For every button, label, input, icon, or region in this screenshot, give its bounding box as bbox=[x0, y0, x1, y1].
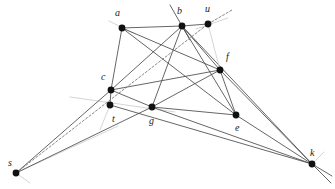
vertex-label-t: t bbox=[112, 113, 115, 124]
dash-extend-u bbox=[208, 10, 232, 24]
vertex-f[interactable] bbox=[217, 67, 224, 74]
edge-g-f bbox=[152, 70, 220, 107]
vertex-a[interactable] bbox=[119, 25, 126, 32]
vertex-label-f: f bbox=[226, 51, 230, 62]
vertex-c[interactable] bbox=[108, 87, 115, 94]
edge-a-c bbox=[111, 28, 122, 90]
vertex-label-s: s bbox=[8, 157, 12, 168]
vertex-t[interactable] bbox=[107, 102, 114, 109]
edge-e-k bbox=[236, 115, 312, 164]
vertex-label-e: e bbox=[235, 122, 240, 133]
geometric-diagram-canvas: abuctgfesk bbox=[0, 0, 335, 189]
vertex-label-a: a bbox=[115, 7, 120, 18]
edge-s-u bbox=[16, 24, 208, 173]
vertex-label-b: b bbox=[177, 5, 182, 16]
edges-group bbox=[16, 24, 312, 173]
vertex-label-k: k bbox=[310, 147, 315, 158]
edge-u-b bbox=[182, 24, 208, 26]
vertex-label-u: u bbox=[205, 3, 210, 14]
vertex-g[interactable] bbox=[149, 104, 156, 111]
edge-b-k bbox=[182, 26, 312, 164]
edge-b-e bbox=[182, 26, 236, 115]
line-t-down bbox=[100, 105, 110, 130]
edge-c-g bbox=[111, 90, 152, 107]
vertex-label-c: c bbox=[101, 71, 106, 82]
edge-t-k bbox=[110, 105, 312, 164]
vertex-s[interactable] bbox=[13, 170, 20, 177]
vertex-label-g: g bbox=[149, 115, 154, 126]
edge-b-c bbox=[111, 26, 182, 90]
diagram-svg: abuctgfesk bbox=[0, 0, 335, 189]
edge-b-g bbox=[152, 26, 182, 107]
vertex-b[interactable] bbox=[179, 23, 186, 30]
edge-a-b bbox=[122, 26, 182, 28]
edge-g-s bbox=[16, 107, 152, 173]
edge-g-k bbox=[152, 107, 312, 164]
vertex-u[interactable] bbox=[205, 21, 212, 28]
edge-c-s bbox=[16, 90, 111, 173]
vertex-e[interactable] bbox=[233, 112, 240, 119]
line-through-u bbox=[196, 18, 228, 29]
vertex-k[interactable] bbox=[309, 161, 316, 168]
edge-g-e bbox=[152, 107, 236, 115]
